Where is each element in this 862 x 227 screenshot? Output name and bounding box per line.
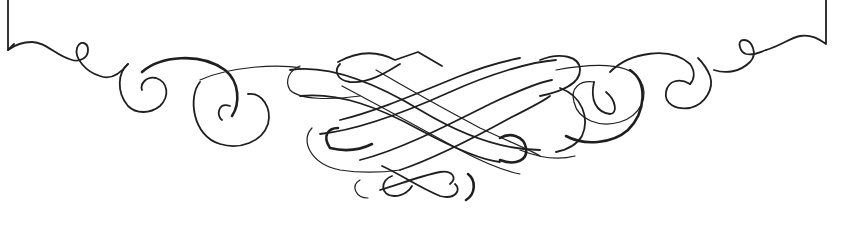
right-frame-corner: [766, 0, 826, 50]
left-frame-corner: [8, 0, 128, 77]
left-swirls: [120, 58, 300, 146]
calligraphic-flourish-ornament: [0, 0, 862, 227]
central-lattice: [288, 52, 580, 174]
right-swirls: [556, 40, 766, 152]
bottom-knot: [355, 166, 474, 200]
